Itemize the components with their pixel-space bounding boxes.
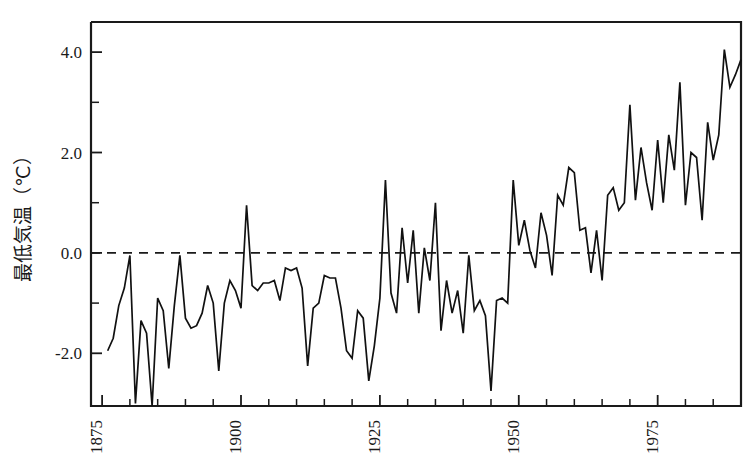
y-tick-label: 2.0 bbox=[61, 144, 82, 163]
y-tick-label: -2.0 bbox=[55, 344, 82, 363]
x-tick-label: 1950 bbox=[504, 420, 523, 454]
temperature-series bbox=[108, 50, 741, 406]
y-tick-label: 0.0 bbox=[61, 244, 82, 263]
x-tick-label: 1975 bbox=[643, 420, 662, 454]
y-axis-title: 最低気温（℃） bbox=[12, 146, 34, 281]
x-tick-label: 1900 bbox=[226, 420, 245, 454]
tick-labels: 18751900192519501975-2.00.02.04.0 bbox=[55, 43, 662, 454]
x-tick-label: 1925 bbox=[365, 420, 384, 454]
x-tick-label: 1875 bbox=[87, 420, 106, 454]
axes bbox=[91, 22, 741, 406]
line-chart: 18751900192519501975-2.00.02.04.0 最低気温（℃… bbox=[0, 0, 756, 474]
chart-figure: 18751900192519501975-2.00.02.04.0 最低気温（℃… bbox=[0, 0, 756, 474]
y-tick-label: 4.0 bbox=[61, 43, 82, 62]
y-axis-label: 最低気温（℃） bbox=[12, 146, 34, 281]
